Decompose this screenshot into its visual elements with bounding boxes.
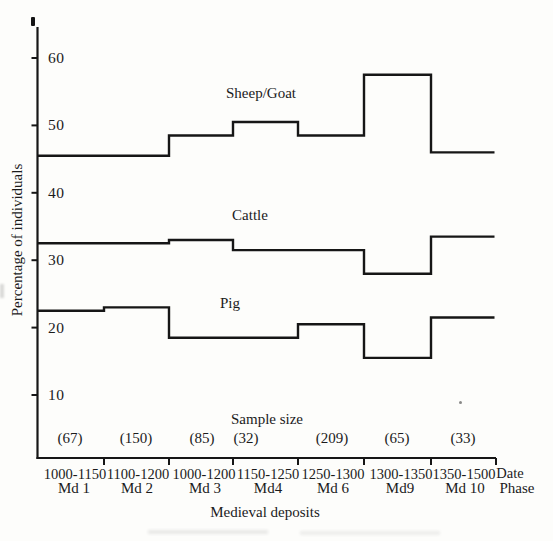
y-tick-label: 30: [48, 251, 65, 269]
medieval-fauna-step-chart: Percentage of individuals Sample size Da…: [0, 0, 553, 541]
scan-artifact-dot: [459, 401, 462, 404]
sample-size-value: (33): [451, 430, 476, 447]
scan-artifact-blob: [31, 17, 35, 26]
phase-label: Md 6: [317, 480, 349, 497]
y-tick-label: 60: [48, 49, 65, 67]
series-label-cattle: Cattle: [232, 207, 268, 224]
y-axis-label: Percentage of individuals: [9, 164, 26, 316]
scan-artifact-smudge: [300, 531, 440, 535]
phase-label: Md4: [254, 480, 282, 497]
x-axis-caption: Medieval deposits: [210, 504, 320, 521]
phase-label: Md9: [386, 480, 414, 497]
series-label-sheep-goat: Sheep/Goat: [226, 85, 296, 102]
phase-column-header: Phase: [500, 480, 535, 497]
scan-artifact-smudge: [0, 284, 4, 298]
series-label-pig: Pig: [220, 295, 240, 312]
scan-artifact-smudge: [148, 530, 268, 534]
sample-size-value: (32): [234, 430, 259, 447]
sample-size-value: (209): [316, 430, 349, 447]
y-tick-label: 40: [48, 184, 65, 202]
y-tick-label: 20: [48, 319, 65, 337]
phase-label: Md 1: [58, 480, 90, 497]
sample-size-value: (65): [385, 430, 410, 447]
phase-label: Md 10: [445, 480, 485, 497]
y-tick-label: 50: [48, 116, 65, 134]
series-line-pig: [38, 307, 495, 358]
sample-size-value: (67): [58, 430, 83, 447]
phase-label: Md 2: [121, 480, 153, 497]
sample-size-value: (85): [190, 430, 215, 447]
sample-size-header: Sample size: [231, 411, 303, 428]
y-tick-label: 10: [48, 386, 65, 404]
sample-size-value: (150): [120, 430, 153, 447]
phase-label: Md 3: [189, 480, 221, 497]
plot-canvas: [0, 0, 553, 541]
series-line-cattle: [38, 237, 495, 274]
